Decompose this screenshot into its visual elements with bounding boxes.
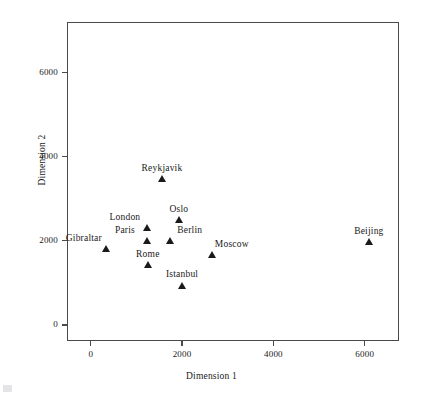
x-tick-mark	[181, 341, 182, 346]
data-point-label: Oslo	[170, 204, 189, 214]
y-tick-label: 4000	[0, 151, 58, 161]
triangle-marker-icon	[144, 261, 152, 268]
x-axis-label: Dimension 1	[0, 371, 423, 381]
triangle-marker-icon	[175, 216, 183, 223]
triangle-marker-icon	[166, 237, 174, 244]
y-tick-label: 6000	[0, 67, 58, 77]
x-tick-label: 6000	[335, 349, 395, 359]
triangle-marker-icon	[178, 282, 186, 289]
triangle-marker-icon	[158, 175, 166, 182]
triangle-marker-icon	[208, 251, 216, 258]
data-point-label: Istanbul	[166, 269, 198, 279]
triangle-marker-icon	[102, 245, 110, 252]
x-tick-mark	[90, 341, 91, 346]
data-point-label: Beijing	[354, 226, 383, 236]
data-point-label: Moscow	[215, 239, 249, 249]
scatter-plot-figure: Dimension 2 Dimension 1 0200040006000 02…	[0, 0, 423, 401]
scan-artifact-corner	[3, 385, 12, 392]
data-point-label: London	[110, 212, 141, 222]
y-tick-label: 2000	[0, 235, 58, 245]
data-point-label: Gibraltar	[66, 233, 102, 243]
x-tick-mark	[273, 341, 274, 346]
y-tick-label: 0	[0, 319, 58, 329]
x-tick-label: 4000	[243, 349, 303, 359]
triangle-marker-icon	[143, 224, 151, 231]
data-point-label: Reykjavik	[142, 163, 183, 173]
x-tick-mark	[364, 341, 365, 346]
plot-data-area: GibraltarParisLondonRomeReykjavikBerlinO…	[67, 22, 399, 341]
data-point-label: Paris	[115, 225, 135, 235]
triangle-marker-icon	[143, 237, 151, 244]
x-tick-label: 2000	[152, 349, 212, 359]
data-point-label: Rome	[136, 249, 160, 259]
x-tick-label: 0	[61, 349, 121, 359]
data-point-label: Berlin	[177, 225, 202, 235]
triangle-marker-icon	[365, 238, 373, 245]
